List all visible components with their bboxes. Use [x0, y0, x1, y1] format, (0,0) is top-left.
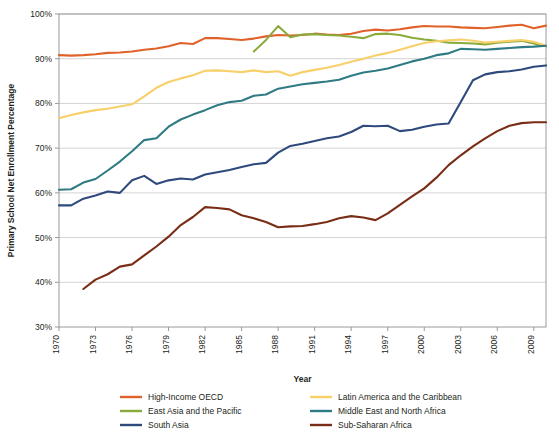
x-tick-label: 2003	[453, 335, 463, 354]
legend-label[interactable]: Middle East and North Africa	[338, 406, 446, 416]
x-tick-label: 1985	[234, 335, 244, 354]
x-tick-label: 1973	[88, 335, 98, 354]
y-tick-label: 50%	[35, 233, 52, 243]
y-tick-label: 70%	[35, 143, 52, 153]
legend-label[interactable]: Sub-Saharan Africa	[338, 420, 412, 430]
x-tick-label: 1982	[197, 335, 207, 354]
x-tick-label: 1994	[343, 335, 353, 354]
y-tick-label: 100%	[30, 9, 52, 19]
plot-area-frame	[59, 14, 546, 327]
x-tick-label: 2006	[489, 335, 499, 354]
y-tick-label: 30%	[35, 322, 52, 332]
y-tick-label: 60%	[35, 188, 52, 198]
y-tick-label: 80%	[35, 98, 52, 108]
x-tick-label: 1988	[270, 335, 280, 354]
x-tick-label: 1970	[51, 335, 61, 354]
legend-label[interactable]: South Asia	[148, 420, 189, 430]
y-tick-label: 90%	[35, 54, 52, 64]
x-tick-label: 1979	[161, 335, 171, 354]
x-tick-label: 2000	[416, 335, 426, 354]
y-tick-label: 40%	[35, 277, 52, 287]
series-line-south-asia	[59, 65, 546, 205]
chart-container: 30%40%50%60%70%80%90%100%197019731976197…	[0, 0, 559, 437]
series-line-middle-east-and-north-africa	[59, 46, 546, 190]
legend-label[interactable]: Latin America and the Caribbean	[338, 392, 462, 402]
legend-label[interactable]: East Asia and the Pacific	[148, 406, 242, 416]
y-axis-title: Primary School Net Enrollment Percentage	[6, 84, 16, 258]
line-chart: 30%40%50%60%70%80%90%100%197019731976197…	[0, 0, 559, 437]
x-axis-title: Year	[294, 374, 313, 384]
series-line-sub-saharan-africa	[83, 122, 546, 289]
x-tick-label: 1997	[380, 335, 390, 354]
x-tick-label: 1991	[307, 335, 317, 354]
legend-label[interactable]: High-Income OECD	[148, 392, 223, 402]
x-tick-label: 2009	[526, 335, 536, 354]
x-tick-label: 1976	[124, 335, 134, 354]
